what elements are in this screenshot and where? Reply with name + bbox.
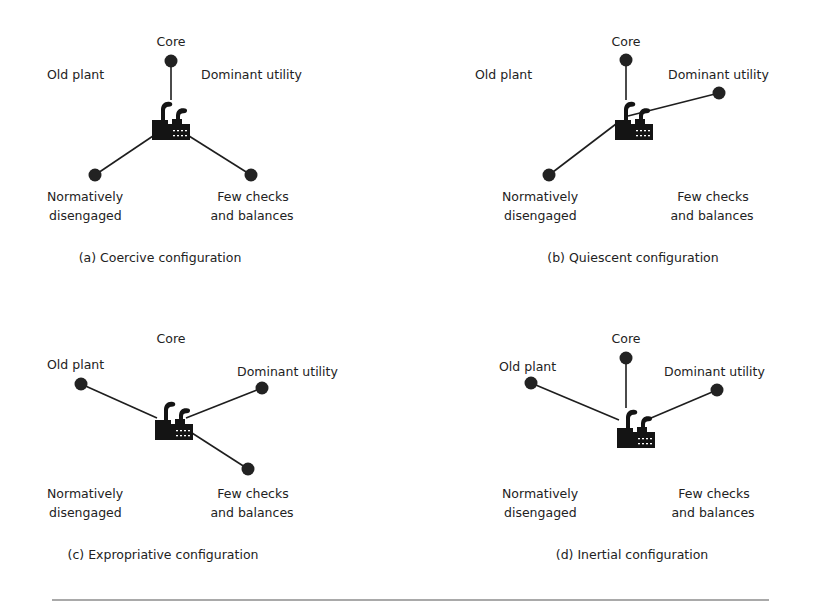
label-normatively-1: Normatively — [502, 486, 579, 501]
panel-c: CoreOld plantDominant utilityNormatively… — [47, 331, 338, 562]
node-old-plant — [525, 377, 538, 390]
panel-b: CoreOld plantDominant utilityNormatively… — [475, 34, 769, 265]
label-few-checks-2: and balances — [671, 505, 754, 520]
label-few-checks-1: Few checks — [677, 189, 749, 204]
factory-icon — [615, 102, 653, 140]
node-old-plant — [75, 378, 88, 391]
label-core: Core — [157, 34, 186, 49]
node-dominant-utility — [713, 87, 726, 100]
factory-icon — [155, 402, 193, 440]
edge-normatively-disengaged — [95, 136, 153, 175]
label-normatively-2: disengaged — [49, 208, 122, 223]
node-few-checks — [245, 169, 258, 182]
factory-icon — [617, 410, 655, 448]
label-normatively-2: disengaged — [49, 505, 122, 520]
label-normatively-1: Normatively — [47, 189, 124, 204]
factory-icon — [152, 102, 190, 140]
label-core: Core — [612, 331, 641, 346]
label-few-checks-2: and balances — [210, 208, 293, 223]
label-normatively-1: Normatively — [47, 486, 124, 501]
node-normatively-disengaged — [543, 169, 556, 182]
label-dominant-utility: Dominant utility — [668, 67, 769, 82]
panel-caption: (a) Coercive configuration — [79, 250, 242, 265]
panel-caption: (c) Expropriative configuration — [68, 547, 259, 562]
label-old-plant: Old plant — [499, 359, 556, 374]
label-dominant-utility: Dominant utility — [664, 364, 765, 379]
label-old-plant: Old plant — [47, 67, 104, 82]
edge-old-plant — [81, 384, 157, 418]
label-few-checks-2: and balances — [210, 505, 293, 520]
edge-dominant-utility — [186, 388, 262, 418]
label-normatively-2: disengaged — [504, 208, 577, 223]
label-normatively-1: Normatively — [502, 189, 579, 204]
edge-few-checks — [192, 433, 248, 469]
node-normatively-disengaged — [89, 169, 102, 182]
panel-caption: (d) Inertial configuration — [556, 547, 709, 562]
node-few-checks — [242, 463, 255, 476]
panel-d: CoreOld plantDominant utilityNormatively… — [499, 331, 765, 562]
node-core — [165, 55, 178, 68]
panel-caption: (b) Quiescent configuration — [547, 250, 718, 265]
label-old-plant: Old plant — [475, 67, 532, 82]
label-core: Core — [157, 331, 186, 346]
node-dominant-utility — [256, 382, 269, 395]
label-dominant-utility: Dominant utility — [237, 364, 338, 379]
edge-normatively-disengaged — [549, 124, 616, 175]
label-normatively-2: disengaged — [504, 505, 577, 520]
label-dominant-utility: Dominant utility — [201, 67, 302, 82]
label-few-checks-1: Few checks — [217, 486, 289, 501]
edge-old-plant — [531, 383, 619, 420]
panel-a: CoreOld plantDominant utilityNormatively… — [47, 34, 302, 265]
node-core — [620, 54, 633, 67]
figure-configurations: CoreOld plantDominant utilityNormatively… — [0, 0, 814, 615]
edge-few-checks — [189, 136, 251, 175]
edge-dominant-utility — [651, 390, 717, 418]
label-core: Core — [612, 34, 641, 49]
label-few-checks-1: Few checks — [678, 486, 750, 501]
label-few-checks-1: Few checks — [217, 189, 289, 204]
node-dominant-utility — [711, 384, 724, 397]
node-core — [620, 352, 633, 365]
label-old-plant: Old plant — [47, 357, 104, 372]
label-few-checks-2: and balances — [670, 208, 753, 223]
